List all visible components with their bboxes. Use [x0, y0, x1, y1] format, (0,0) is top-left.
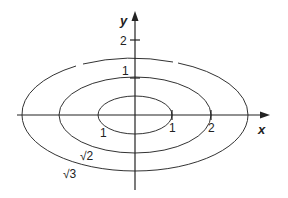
y-axis-arrow-icon	[132, 11, 139, 21]
x-tick-label-2: 2	[208, 121, 215, 135]
curve-label-outer: √3	[63, 167, 77, 181]
x-tick-label-1: 1	[169, 121, 176, 135]
curve-label-inner: 1	[100, 126, 107, 140]
curve-label-middle: √2	[80, 149, 94, 163]
level-curves-diagram: y x 2 1 1 2 1 √2 √3	[0, 0, 288, 198]
x-axis-label: x	[257, 122, 266, 137]
outer-ellipse-top-left-segment	[22, 66, 76, 115]
x-axis-arrow-icon	[260, 112, 270, 119]
y-tick-label-1: 1	[122, 64, 129, 78]
y-axis-label: y	[119, 13, 128, 28]
y-tick-label-2: 2	[120, 34, 127, 48]
